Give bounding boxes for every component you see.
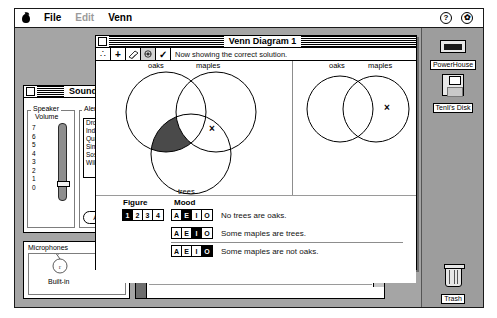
volume-tick: 3 bbox=[32, 158, 36, 167]
desktop: File Edit Venn ? ✿ PowerHouse Tenli's Di… bbox=[14, 8, 484, 308]
mood-label: Mood bbox=[174, 198, 195, 207]
figure-selector[interactable]: 1 2 3 4 bbox=[122, 209, 164, 221]
hard-disk-icon bbox=[440, 40, 466, 53]
desktop-icon-label: PowerHouse bbox=[430, 60, 476, 70]
mood-option-e[interactable]: E bbox=[182, 210, 192, 220]
menu-file[interactable]: File bbox=[44, 13, 61, 23]
mood-option-i[interactable]: I bbox=[192, 228, 202, 238]
close-icon[interactable] bbox=[26, 87, 35, 96]
mood-option-e[interactable]: E bbox=[182, 246, 192, 256]
plus-icon[interactable]: + bbox=[111, 48, 126, 60]
venn-circle-label-trees: trees bbox=[178, 187, 195, 196]
speaker-volume-label-1: Speaker bbox=[31, 105, 61, 112]
menu-bar: File Edit Venn ? ✿ bbox=[15, 9, 483, 28]
mood-option-o[interactable]: O bbox=[202, 210, 212, 220]
venn-circle-label-maples: maples bbox=[368, 61, 392, 70]
application-menu-icon[interactable]: ✿ bbox=[461, 12, 473, 24]
trash-icon bbox=[445, 266, 462, 287]
figure-option-1[interactable]: 1 bbox=[123, 210, 133, 220]
desktop-icon-tenlis-disk[interactable]: Tenli's Disk bbox=[424, 74, 482, 114]
venn-circle-label-oaks: oaks bbox=[148, 61, 164, 70]
screenshot-root: File Edit Venn ? ✿ PowerHouse Tenli's Di… bbox=[0, 0, 497, 318]
mood-selector[interactable]: A E I O bbox=[171, 245, 213, 257]
venn-toolbar: ∴ + bbox=[96, 48, 416, 61]
volume-tick: 2 bbox=[32, 167, 36, 176]
mood-option-o[interactable]: O bbox=[202, 228, 212, 238]
volume-tick: 7 bbox=[32, 124, 36, 133]
premise-text: Some maples are trees. bbox=[221, 229, 306, 238]
built-in-microphone-icon[interactable]: r bbox=[50, 252, 70, 276]
venn-x-mark[interactable]: × bbox=[384, 103, 390, 113]
speaker-volume-slider[interactable] bbox=[58, 123, 67, 201]
mood-option-i[interactable]: I bbox=[192, 210, 202, 220]
mood-row[interactable]: A E I O No trees are oaks. bbox=[171, 209, 286, 221]
titlebar-stripes bbox=[109, 36, 224, 47]
close-icon[interactable] bbox=[98, 37, 107, 46]
desktop-icon-strip: PowerHouse Tenli's Disk Trash bbox=[421, 28, 483, 307]
mood-selector[interactable]: A E I O bbox=[171, 227, 213, 239]
titlebar-stripes bbox=[37, 86, 64, 97]
trash-can[interactable]: Trash bbox=[424, 266, 482, 305]
microphones-label: Microphones bbox=[28, 244, 68, 251]
therefore-icon[interactable]: ∴ bbox=[96, 48, 111, 60]
premise-text: No trees are oaks. bbox=[221, 211, 286, 220]
divider bbox=[149, 284, 372, 285]
venn-diagram-window[interactable]: Venn Diagram 1 ∴ + bbox=[95, 35, 417, 270]
therefore-glyph: ∴ bbox=[100, 49, 106, 59]
venn-titlebar[interactable]: Venn Diagram 1 bbox=[96, 36, 416, 48]
venn-window-title: Venn Diagram 1 bbox=[224, 36, 302, 47]
magnifier-icon[interactable] bbox=[141, 48, 156, 60]
mood-row[interactable]: A E I O Some maples are not oaks. bbox=[171, 245, 318, 257]
trash-label: Trash bbox=[441, 294, 465, 304]
venn-x-mark[interactable]: × bbox=[209, 124, 215, 134]
venn-controls: Figure Mood 1 2 3 4 A E I O bbox=[96, 196, 416, 283]
mood-option-e[interactable]: E bbox=[182, 228, 192, 238]
mood-option-a[interactable]: A bbox=[172, 246, 182, 256]
volume-tick: 6 bbox=[32, 133, 36, 142]
mood-option-i[interactable]: I bbox=[192, 246, 202, 256]
figure-option-3[interactable]: 3 bbox=[143, 210, 153, 220]
desktop-icon-powerhouse[interactable]: PowerHouse bbox=[424, 40, 482, 71]
microphone-device-label: Built-in bbox=[48, 278, 69, 285]
volume-tick: 5 bbox=[32, 141, 36, 150]
menu-edit[interactable]: Edit bbox=[75, 13, 94, 23]
help-icon[interactable]: ? bbox=[440, 12, 452, 24]
eraser-icon[interactable] bbox=[126, 48, 141, 60]
diagram-divider bbox=[292, 61, 293, 195]
desktop-icon-label: Tenli's Disk bbox=[433, 103, 474, 113]
check-icon[interactable]: ✓ bbox=[156, 48, 171, 60]
floppy-disk-icon bbox=[442, 74, 464, 96]
volume-tick: 4 bbox=[32, 150, 36, 159]
apple-menu-icon[interactable] bbox=[21, 12, 32, 24]
figure-option-2[interactable]: 2 bbox=[133, 210, 143, 220]
volume-tick: 0 bbox=[32, 184, 36, 193]
plus-glyph: + bbox=[115, 49, 121, 60]
check-glyph: ✓ bbox=[159, 49, 167, 60]
mood-selector[interactable]: A E I O bbox=[171, 209, 213, 221]
venn-canvas[interactable]: oaks maples trees × oaks maples × bbox=[96, 61, 416, 196]
slider-thumb[interactable] bbox=[57, 181, 70, 187]
conclusion-divider bbox=[171, 242, 403, 243]
volume-scale: 7 6 5 4 3 2 1 0 bbox=[32, 124, 36, 192]
mood-option-a[interactable]: A bbox=[172, 228, 182, 238]
mood-option-o[interactable]: O bbox=[202, 246, 212, 256]
menu-venn[interactable]: Venn bbox=[108, 13, 132, 23]
conclusion-text: Some maples are not oaks. bbox=[221, 247, 318, 256]
trash-ridges bbox=[449, 270, 458, 284]
figure-option-4[interactable]: 4 bbox=[153, 210, 163, 220]
mood-option-a[interactable]: A bbox=[172, 210, 182, 220]
volume-tick: 1 bbox=[32, 175, 36, 184]
speaker-volume-label-2: Volume bbox=[33, 113, 60, 120]
venn-circle-label-maples: maples bbox=[196, 61, 220, 70]
venn-circle-label-oaks: oaks bbox=[329, 61, 345, 70]
venn-status-text: Now showing the correct solution. bbox=[171, 48, 416, 60]
mood-row[interactable]: A E I O Some maples are trees. bbox=[171, 227, 306, 239]
titlebar-stripes bbox=[301, 36, 416, 47]
figure-label: Figure bbox=[123, 198, 147, 207]
menu-bar-right: ? ✿ bbox=[440, 12, 477, 24]
